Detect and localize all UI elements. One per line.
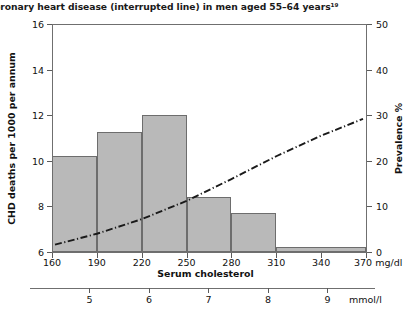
mmol-tick-label-6: 6: [146, 294, 152, 305]
y-left-tick-label-12: 12: [32, 110, 44, 121]
mmol-tick-8: [268, 288, 269, 293]
y-right-tick-50: [367, 24, 372, 25]
mmol-tick-label-5: 5: [86, 294, 92, 305]
y-right-tick-30: [367, 115, 372, 116]
chart-figure: oronary heart disease (interrupted line)…: [0, 0, 411, 317]
prevalence-line: [55, 119, 363, 245]
y-right-tick-label-50: 50: [376, 19, 388, 30]
prevalence-line-layer: [52, 24, 367, 253]
y-left-tick-14: [47, 70, 52, 71]
y-left-tick-12: [47, 115, 52, 116]
y-right-tick-20: [367, 161, 372, 162]
y-left-tick-label-16: 16: [32, 19, 44, 30]
x-tick-label-160: 160: [43, 257, 61, 268]
x-tick-label-220: 220: [133, 257, 151, 268]
plot-area: 6810121416 01020304050 16019022025028031…: [52, 24, 367, 253]
mmol-tick-7: [208, 288, 209, 293]
mmol-tick-6: [149, 288, 150, 293]
x-tick-label-250: 250: [177, 257, 195, 268]
y-left-tick-label-14: 14: [32, 64, 44, 75]
y-right-tick-label-30: 30: [376, 110, 388, 121]
y-left-tick-10: [47, 161, 52, 162]
y-left-tick-label-10: 10: [32, 155, 44, 166]
x-tick-label-340: 340: [312, 257, 330, 268]
y-right-tick-0: [367, 252, 372, 253]
mmol-tick-label-8: 8: [265, 294, 271, 305]
figure-caption: oronary heart disease (interrupted line)…: [0, 1, 411, 12]
y-right-tick-label-20: 20: [376, 155, 388, 166]
y-left-tick-label-6: 6: [38, 247, 44, 258]
y-right-tick-10: [367, 206, 372, 207]
mmol-tick-label-7: 7: [205, 294, 211, 305]
y-axis-right-title: Prevalence %: [392, 24, 406, 253]
x-axis-title: Serum cholesterol: [0, 268, 411, 279]
mmol-axis-line: [30, 288, 375, 289]
y-right-tick-40: [367, 70, 372, 71]
y-axis-left-title-text: CHD deaths per 1000 per annum: [6, 52, 17, 225]
x-tick-label-310: 310: [267, 257, 285, 268]
y-axis-right-title-text: Prevalence %: [394, 103, 405, 174]
y-left-tick-label-8: 8: [38, 201, 44, 212]
mmol-tick-5: [89, 288, 90, 293]
x-tick-label-280: 280: [222, 257, 240, 268]
x-tick-label-370: 370 mg/dl: [354, 257, 402, 268]
mmol-tick-label-9: 9: [324, 294, 330, 305]
x-tick-label-190: 190: [88, 257, 106, 268]
y-right-tick-label-10: 10: [376, 201, 388, 212]
mmol-axis-unit: mmol/l: [349, 294, 382, 305]
y-right-tick-label-40: 40: [376, 64, 388, 75]
y-right-tick-label-0: 0: [376, 247, 382, 258]
y-axis-left-title: CHD deaths per 1000 per annum: [4, 24, 18, 253]
y-left-tick-8: [47, 206, 52, 207]
mmol-tick-9: [327, 288, 328, 293]
y-left-tick-16: [47, 24, 52, 25]
